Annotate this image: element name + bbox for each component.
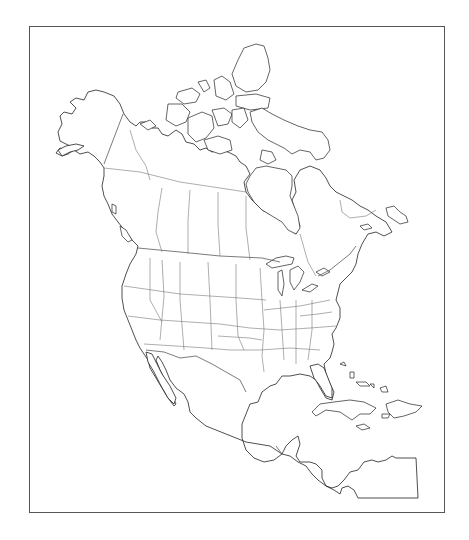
cuba	[312, 400, 376, 420]
haida-gwaii	[112, 204, 116, 214]
jamaica	[356, 424, 370, 430]
newfoundland	[386, 206, 408, 224]
puerto-rico	[382, 414, 390, 418]
mainland-coastline	[56, 90, 418, 498]
hispaniola	[386, 400, 422, 418]
north-america-outline-map	[0, 0, 469, 540]
florida	[310, 364, 332, 398]
